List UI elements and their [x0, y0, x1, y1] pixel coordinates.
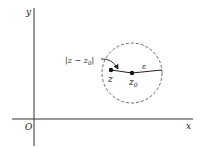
point-z0 — [130, 71, 134, 75]
distance-segment — [111, 70, 132, 73]
x-axis-label: x — [186, 121, 191, 131]
point-z0-subscript: 0 — [134, 81, 138, 88]
point-z-label: z — [107, 74, 113, 84]
point-z — [109, 68, 113, 72]
distance-label-suffix: | — [91, 56, 94, 65]
origin-label: O — [25, 122, 33, 132]
radius-line — [132, 70, 162, 73]
y-axis-label: y — [25, 7, 32, 17]
epsilon-label: ε — [142, 62, 146, 71]
point-z0-label: z0 — [128, 77, 138, 88]
distance-label-prefix: |z − z — [65, 56, 89, 65]
distance-label: |z − z0| — [65, 56, 94, 66]
distance-arrow — [101, 59, 118, 69]
neighborhood-diagram: y x O z z0 ε |z − z0| — [0, 0, 201, 148]
